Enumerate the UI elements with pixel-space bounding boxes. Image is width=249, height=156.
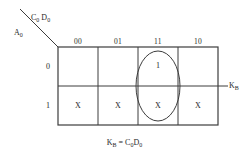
caption-lhs-sub: B	[113, 142, 117, 148]
caption-rhs-second-sub: 0	[139, 142, 142, 148]
row-header-1: 1	[42, 102, 54, 110]
column-header-01: 01	[98, 38, 138, 46]
column-axis-var-c-sub: 0	[36, 17, 39, 23]
caption-equation: KB = C0D0	[0, 139, 249, 147]
output-label: KB	[229, 82, 239, 90]
kmap-graphics	[0, 0, 249, 156]
cell-r1-c00: X	[58, 102, 98, 110]
column-axis-var-d: D0	[41, 13, 50, 22]
column-axis-label: C0 D0	[31, 14, 50, 22]
cell-r0-c11: 1	[138, 62, 178, 70]
cell-r1-c10: X	[178, 102, 218, 110]
cell-r1-c01: X	[98, 102, 138, 110]
caption-lhs-base: K	[107, 138, 113, 147]
column-header-10: 10	[178, 38, 218, 46]
output-label-base: K	[229, 81, 235, 90]
row-axis-label: A0	[14, 29, 23, 37]
output-label-sub: B	[235, 85, 239, 91]
row-axis-var-a: A0	[14, 28, 23, 37]
row-header-0: 0	[42, 63, 54, 71]
kmap-diagram: C0 D0 A0 00 01 11 10 0 1 1 X X X X KB KB…	[0, 0, 249, 156]
caption-rhs-first-sub: 0	[130, 142, 133, 148]
column-header-11: 11	[138, 38, 178, 46]
column-header-00: 00	[58, 38, 98, 46]
cell-r1-c11: X	[138, 102, 178, 110]
column-axis-var-d-sub: 0	[47, 17, 50, 23]
row-axis-var-a-sub: 0	[20, 32, 23, 38]
